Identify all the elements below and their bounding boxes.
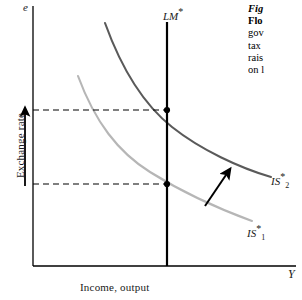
lm-label-star: * (178, 6, 183, 17)
x-axis-variable-label: Y (288, 268, 295, 280)
is2-curve-label: IS*2 (271, 172, 289, 190)
is2-curve (105, 23, 271, 177)
caption-line-text: Flo (248, 15, 263, 26)
caption-line: on l (248, 64, 302, 76)
is1-curve (78, 76, 252, 221)
equilibrium-dot-new (164, 107, 170, 113)
y-axis-variable-label: e (23, 2, 28, 13)
figure-container: e Y Income, output Exchange rate LM* IS*… (0, 0, 302, 300)
lm-curve-label: LM* (163, 7, 183, 22)
x-axis-title: Income, output (80, 282, 149, 293)
caption-line-text: tax (248, 40, 261, 51)
caption-line: rais (248, 52, 302, 64)
caption-line: Fig (248, 3, 302, 15)
caption-line-text: rais (248, 52, 263, 63)
is1-label-text: IS (247, 227, 256, 239)
is2-label-sub: 2 (285, 181, 289, 190)
caption-line: tax (248, 40, 302, 52)
is1-curve-label: IS*1 (247, 224, 265, 242)
caption-line: Flo (248, 15, 302, 27)
figure-caption: FigFlogovtaxraison l (248, 3, 302, 76)
y-axis-title: Exchange rate (15, 98, 26, 194)
caption-line-text: on l (248, 64, 264, 75)
is1-label-sub: 1 (261, 233, 265, 242)
lm-label-text: LM (163, 10, 178, 22)
caption-line-text: gov (248, 27, 264, 38)
caption-line: gov (248, 27, 302, 39)
equilibrium-dot-initial (164, 181, 170, 187)
is2-label-text: IS (271, 175, 280, 187)
is-shift-arrow (205, 172, 228, 206)
caption-line-text: Fig (248, 3, 263, 14)
